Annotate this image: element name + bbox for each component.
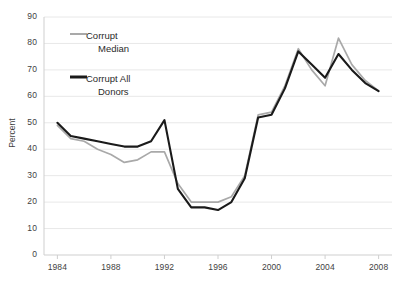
x-axis-tick-label: 2000 xyxy=(252,262,292,272)
legend-label-corrupt-median-line1: Corrupt xyxy=(86,29,129,42)
x-axis-tick-label: 1996 xyxy=(198,262,238,272)
x-axis-tick-label: 1988 xyxy=(91,262,131,272)
y-axis-tick-label: 90 xyxy=(13,11,37,21)
y-axis-tick-label: 30 xyxy=(13,170,37,180)
y-axis-tick-label: 10 xyxy=(13,223,37,233)
legend-label-corrupt-all-donors-line2: Donors xyxy=(86,85,130,98)
y-axis-tick-label: 70 xyxy=(13,64,37,74)
y-axis-tick-label: 40 xyxy=(13,143,37,153)
x-axis-tick-label: 2004 xyxy=(305,262,345,272)
line-chart: Percent 9080706050403020100 198419881992… xyxy=(0,0,408,284)
axis-tickmarks xyxy=(57,255,378,259)
x-axis-tick-label: 1992 xyxy=(144,262,184,272)
y-axis-tick-label: 60 xyxy=(13,90,37,100)
x-axis-tick-label: 1984 xyxy=(37,262,77,272)
y-axis-tick-label: 20 xyxy=(13,196,37,206)
plot-area xyxy=(0,0,408,284)
legend-item-corrupt-all-donors: Corrupt All Donors xyxy=(86,72,130,98)
y-axis-tick-label: 80 xyxy=(13,37,37,47)
y-axis-title: Percent xyxy=(7,103,17,163)
legend-label-corrupt-median-line2: Median xyxy=(86,42,129,55)
y-axis-tick-label: 0 xyxy=(13,249,37,259)
series-lines xyxy=(57,34,378,210)
legend-item-corrupt-median: Corrupt Median xyxy=(86,29,129,55)
x-axis-tick-label: 2008 xyxy=(359,262,399,272)
series-line-corrupt-median xyxy=(57,38,378,202)
y-axis-tick-label: 50 xyxy=(13,117,37,127)
legend-label-corrupt-all-donors-line1: Corrupt All xyxy=(86,72,130,85)
